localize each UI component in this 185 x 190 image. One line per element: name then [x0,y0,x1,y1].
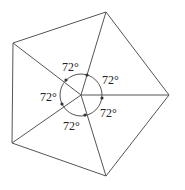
angle-label-4: 72° [63,119,80,133]
angle-label-5: 72° [40,90,57,104]
arrow-marker-icon [60,102,63,105]
arrow-marker-icon [85,73,88,76]
pentagon-diagram: 72° 72° 72° 72° 72° [0,0,185,190]
pentagon-outline [12,12,169,176]
angle-label-1: 72° [62,60,79,74]
angle-label-2: 72° [102,73,119,87]
angle-label-3: 72° [100,106,117,120]
arrow-marker-icon [64,78,67,81]
arrow-marker-icon [100,96,103,99]
arrow-marker-icon [83,113,86,116]
